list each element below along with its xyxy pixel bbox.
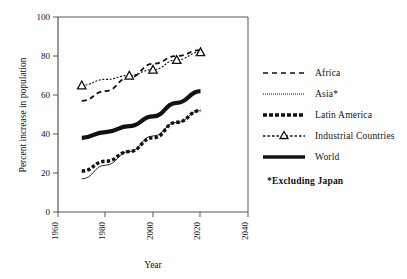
data-series-layer [78,48,205,179]
legend-label-world: World [315,152,340,162]
thick-solid-line-sample [262,150,306,164]
series-marker-triangle [78,81,86,89]
series-line-world [82,91,201,138]
series-line-industrial-countries [82,52,201,85]
y-axis-ticks [53,17,58,212]
legend-item-industrial-countries[interactable]: Industrial Countries [262,125,407,146]
x-tick-label-2020: 2020 [192,222,202,241]
thick-dashed-line-sample [262,108,306,122]
dashed-line-sample [262,66,306,80]
y-tick-label-40: 40 [41,129,51,139]
legend-item-latin-america[interactable]: Latin America [262,104,407,125]
series-line-africa [82,50,201,101]
legend-label-africa: Africa [315,68,340,78]
y-tick-label-20: 20 [41,168,51,178]
x-axis-title: Year [144,260,162,270]
triangle-marker-line-sample [262,129,306,143]
y-axis-title: Percent increase in population [18,57,28,172]
y-tick-label-80: 80 [41,51,51,61]
legend-label-latin-america: Latin America [315,110,372,120]
legend-item-asia[interactable]: Asia* [262,83,407,104]
x-tick-label-1960: 1960 [50,222,60,241]
legend-label-industrial-countries: Industrial Countries [315,131,395,141]
x-tick-label-1980: 1980 [97,222,107,241]
x-tick-label-2040: 2040 [240,222,250,241]
legend-label-asia: Asia* [315,89,338,99]
x-axis-ticks [58,212,248,217]
population-growth-chart: 0 20 40 60 80 100 1960 1980 2000 2020 20… [0,0,407,279]
y-tick-label-100: 100 [37,12,51,22]
fine-dotted-line-sample [262,87,306,101]
legend-item-world[interactable]: World [262,146,407,167]
y-tick-label-0: 0 [46,207,51,217]
y-tick-label-60: 60 [41,90,51,100]
legend-footnote: *Excluding Japan [267,176,407,186]
x-tick-label-2000: 2000 [145,222,155,241]
legend-item-africa[interactable]: Africa [262,62,407,83]
chart-legend: Africa Asia* Latin America Industrial Co… [262,62,407,186]
